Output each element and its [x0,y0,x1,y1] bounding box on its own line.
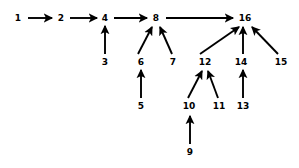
node-label-4: 4 [102,14,108,23]
node-label-12: 12 [199,58,212,67]
node-label-8: 8 [153,14,159,23]
node-label-6: 6 [138,58,144,67]
node-label-7: 7 [170,58,176,67]
node-label-14: 14 [235,58,248,67]
diagram-canvas: 12345678910111213141516 [0,0,299,168]
arrow-10-to-12 [188,71,202,98]
node-label-3: 3 [102,58,108,67]
arrow-15-to-16 [252,27,278,54]
node-label-13: 13 [237,102,250,111]
node-label-2: 2 [58,14,64,23]
arrow-6-to-8 [138,27,152,54]
arrow-12-to-16 [200,27,239,54]
node-label-16: 16 [239,14,252,23]
diagram-edges-layer [0,0,299,168]
node-label-1: 1 [15,14,21,23]
node-label-11: 11 [213,102,226,111]
node-label-15: 15 [275,58,288,67]
arrow-11-to-12 [208,71,218,98]
node-label-10: 10 [183,102,196,111]
node-label-9: 9 [187,148,193,157]
node-label-5: 5 [138,102,144,111]
arrow-7-to-8 [160,27,172,54]
